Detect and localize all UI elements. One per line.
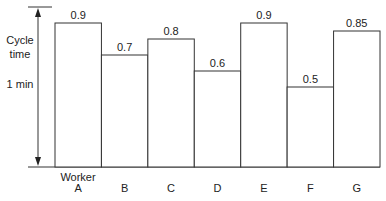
bars-group: 0.9A0.7B0.8C0.6D0.9E0.5F0.85G — [55, 9, 380, 194]
ylabel-cycle: Cycle — [6, 34, 34, 46]
bar-c — [148, 39, 194, 167]
category-label: C — [167, 182, 175, 194]
value-label: 0.7 — [117, 41, 132, 53]
bar-b — [101, 55, 147, 167]
category-label: B — [121, 182, 128, 194]
value-label: 0.9 — [256, 9, 271, 21]
category-label: D — [214, 182, 222, 194]
value-label: 0.5 — [303, 73, 318, 85]
value-label: 0.8 — [163, 25, 178, 37]
bar-a — [55, 23, 101, 167]
bar-g — [334, 31, 380, 167]
category-label: A — [75, 182, 83, 194]
ylabel-time: time — [10, 48, 31, 60]
category-label: F — [307, 182, 314, 194]
cycle-time-chart: Cycle time 1 min Worker 0.9A0.7B0.8C0.6D… — [0, 0, 386, 201]
bar-e — [241, 23, 287, 167]
ylabel-1min: 1 min — [7, 78, 34, 90]
category-label: E — [260, 182, 267, 194]
arrow-up-icon — [35, 8, 41, 17]
bar-f — [287, 87, 333, 167]
category-label: G — [353, 182, 362, 194]
bar-d — [194, 71, 240, 167]
arrow-down-icon — [35, 157, 41, 166]
value-label: 0.6 — [210, 57, 225, 69]
value-label: 0.85 — [346, 17, 367, 29]
value-label: 0.9 — [71, 9, 86, 21]
